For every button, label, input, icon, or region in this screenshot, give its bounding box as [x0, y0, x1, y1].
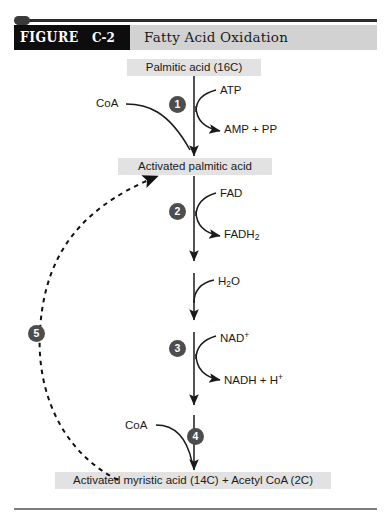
figure-container: FIGURE C-2 Fatty Acid Oxidation Palmitic… [0, 0, 387, 522]
figure-bottom-rule [14, 508, 377, 510]
label-h2o-o: O [231, 275, 240, 287]
step-badge-4: 4 [187, 428, 204, 445]
step-badge-2: 2 [169, 203, 186, 220]
step-badge-1: 1 [169, 96, 186, 113]
cosubstrate-arrow-h2o [194, 280, 214, 303]
cosubstrate-arrow-nad [196, 336, 216, 359]
step-badge-5: 5 [28, 325, 45, 342]
label-coa-step-1: CoA [96, 97, 118, 109]
cosubstrate-arrow-atp [196, 90, 216, 112]
label-nad-plus: NAD+ [220, 330, 249, 344]
label-fad: FAD [220, 187, 242, 199]
label-nad-superscript: + [244, 330, 249, 340]
product-arrow-amp-pp [196, 106, 220, 131]
product-arrow-nadh [196, 354, 220, 380]
step-badge-3: 3 [169, 340, 186, 357]
recycle-arrow-step-5 [40, 176, 158, 480]
label-fadh2: FADH2 [224, 228, 259, 242]
label-nad-base: NAD [220, 332, 244, 344]
label-h2o: H2O [218, 275, 240, 289]
label-atp: ATP [220, 84, 242, 96]
label-fadh2-subscript: 2 [255, 232, 260, 242]
label-coa-step-4: CoA [125, 419, 147, 431]
cosubstrate-arrow-fad [196, 193, 216, 216]
product-arrow-fadh2 [196, 211, 220, 236]
label-amp-pp: AMP + PP [224, 123, 277, 135]
label-nadh-base: NADH + H [224, 374, 278, 386]
label-nadh-superscript: + [278, 372, 283, 382]
label-nadh-h-plus: NADH + H+ [224, 372, 283, 386]
label-fadh2-base: FADH [224, 228, 255, 240]
substrate-arrow-coa-step-4 [156, 425, 192, 462]
